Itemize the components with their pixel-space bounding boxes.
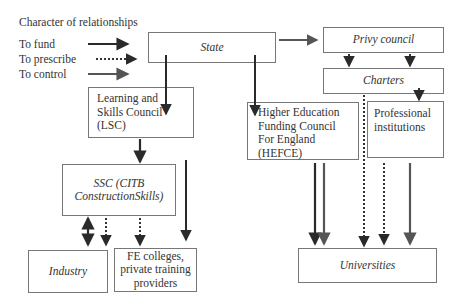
connectors bbox=[0, 0, 464, 305]
